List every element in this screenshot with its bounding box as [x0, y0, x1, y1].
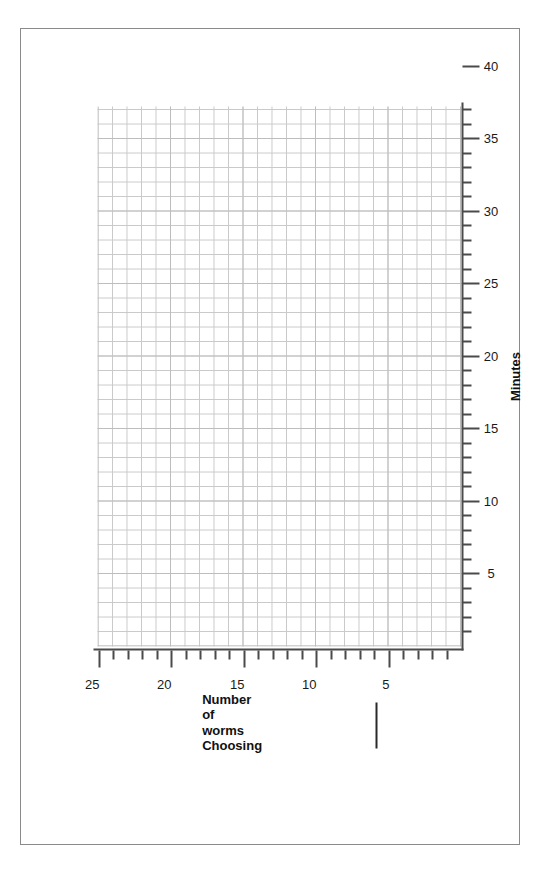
- x-axis-tick-major: [463, 428, 480, 430]
- x-axis-tick-minor: [463, 239, 472, 241]
- x-axis-tick-minor: [463, 587, 472, 589]
- y-axis-title-line-3: worms: [202, 722, 266, 737]
- x-axis-tick-minor: [463, 123, 472, 125]
- x-axis-tick-minor: [463, 297, 472, 299]
- y-axis-title-line-1: Number: [202, 691, 266, 706]
- x-axis-tick-label: 40: [484, 59, 498, 74]
- y-axis-title-line-2: of: [202, 707, 266, 722]
- x-axis-tick-minor: [463, 631, 472, 633]
- y-axis-tick-minor: [214, 650, 216, 659]
- x-axis-tick-minor: [463, 196, 472, 198]
- y-axis-tick-minor: [200, 650, 202, 659]
- y-axis-tick-minor: [185, 650, 187, 659]
- legend-line-sample: [376, 702, 378, 748]
- x-axis-tick-minor: [463, 515, 472, 517]
- x-axis-tick-minor: [463, 181, 472, 183]
- x-axis-tick-major: [463, 500, 480, 502]
- x-axis-tick-minor: [463, 602, 472, 604]
- x-axis-tick-label: 20: [484, 349, 498, 364]
- y-axis-tick-minor: [142, 650, 144, 659]
- plot-grid-area: [98, 106, 462, 646]
- y-axis-tick-major: [171, 650, 173, 667]
- x-axis-tick-label: 25: [484, 276, 498, 291]
- x-axis-tick-minor: [463, 109, 472, 111]
- chart-canvas: 510152025303540510152025 Minutes Number …: [76, 119, 465, 754]
- y-axis-tick-minor: [113, 650, 115, 659]
- x-axis-tick-minor: [463, 254, 472, 256]
- x-axis-tick-minor: [463, 558, 472, 560]
- x-axis-tick-minor: [463, 413, 472, 415]
- x-axis-tick-minor: [463, 384, 472, 386]
- x-axis-tick-minor: [463, 486, 472, 488]
- x-axis-tick-minor: [463, 471, 472, 473]
- y-axis-tick-minor: [359, 650, 361, 659]
- x-axis-tick-label: 35: [484, 131, 498, 146]
- x-axis-tick-major: [463, 355, 480, 357]
- x-axis-line: [462, 102, 464, 650]
- x-axis-tick-minor: [463, 152, 472, 154]
- y-axis-tick-minor: [229, 650, 231, 659]
- x-axis-tick-minor: [463, 399, 472, 401]
- y-axis-tick-minor: [403, 650, 405, 659]
- y-axis-tick-label: 5: [382, 677, 389, 692]
- x-axis-tick-label: 30: [484, 204, 498, 219]
- x-axis-tick-minor: [463, 544, 472, 546]
- page-frame: 510152025303540510152025 Minutes Number …: [20, 28, 520, 845]
- x-axis-title: Minutes: [508, 106, 523, 646]
- y-axis-tick-label: 15: [230, 677, 244, 692]
- x-axis-tick-minor: [463, 457, 472, 459]
- y-axis-tick-minor: [330, 650, 332, 659]
- x-axis-tick-minor: [463, 225, 472, 227]
- y-axis-tick-minor: [127, 650, 129, 659]
- y-axis-tick-minor: [258, 650, 260, 659]
- y-axis-tick-minor: [446, 650, 448, 659]
- y-axis-tick-major: [316, 650, 318, 667]
- y-axis-tick-minor: [301, 650, 303, 659]
- y-axis-tick-minor: [287, 650, 289, 659]
- x-axis-tick-label: 10: [484, 494, 498, 509]
- x-axis-tick-minor: [463, 167, 472, 169]
- y-axis-tick-minor: [417, 650, 419, 659]
- y-axis-tick-major: [388, 650, 390, 667]
- y-axis-title-line-4: Choosing: [202, 737, 266, 752]
- y-axis-tick-minor: [156, 650, 158, 659]
- x-axis-tick-major: [463, 138, 480, 140]
- x-axis-tick-label: 15: [484, 421, 498, 436]
- x-axis-tick-minor: [463, 341, 472, 343]
- y-axis-tick-label: 20: [157, 677, 171, 692]
- y-axis-tick-minor: [345, 650, 347, 659]
- x-axis-tick-minor: [463, 312, 472, 314]
- x-axis-tick-major: [463, 283, 480, 285]
- x-axis-tick-major: [463, 65, 480, 67]
- y-axis-line: [94, 648, 464, 650]
- y-axis-tick-label: 25: [85, 677, 99, 692]
- y-axis-tick-major: [243, 650, 245, 667]
- y-axis-tick-major: [98, 650, 100, 667]
- y-axis-tick-label: 10: [302, 677, 316, 692]
- x-axis-tick-minor: [463, 370, 472, 372]
- x-axis-tick-major: [463, 210, 480, 212]
- y-axis-tick-minor: [432, 650, 434, 659]
- x-axis-tick-minor: [463, 529, 472, 531]
- x-axis-tick-label: 5: [487, 566, 494, 581]
- x-axis-tick-minor: [463, 268, 472, 270]
- x-axis-tick-minor: [463, 616, 472, 618]
- y-axis-title: Number of worms Choosing: [202, 691, 266, 752]
- y-axis-tick-minor: [272, 650, 274, 659]
- x-axis-tick-minor: [463, 442, 472, 444]
- y-axis-tick-minor: [374, 650, 376, 659]
- x-axis-tick-minor: [463, 326, 472, 328]
- x-axis-tick-major: [463, 573, 480, 575]
